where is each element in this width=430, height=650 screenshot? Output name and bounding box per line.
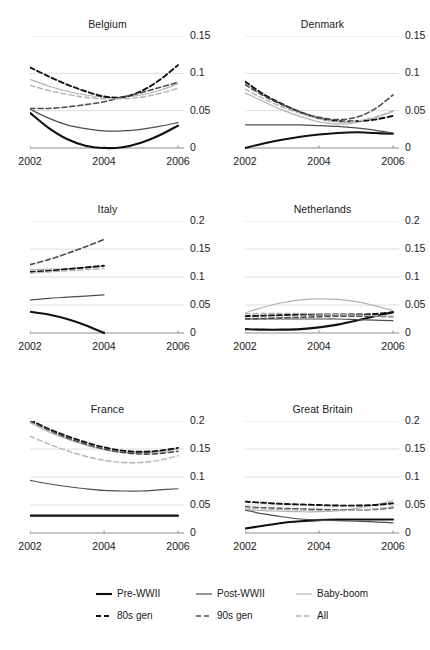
y-tick-label: 0.05 — [405, 104, 425, 116]
series-line-gen80s — [30, 421, 178, 452]
legend-item-gen90s[interactable]: 90s gen — [196, 610, 253, 621]
x-tick-label: 2004 — [297, 155, 341, 167]
y-tick-label: 0.2 — [405, 214, 420, 226]
y-tick-label: 0 — [405, 526, 411, 538]
panel-title: Italy — [0, 203, 215, 215]
plot-area — [245, 421, 407, 539]
x-tick-label: 2006 — [371, 340, 415, 352]
series-line-all — [245, 507, 393, 511]
x-tick-label: 2002 — [223, 340, 267, 352]
panel-belgium: Belgium00.050.10.15200220042006 — [0, 18, 215, 218]
y-tick-label: 0.1 — [190, 470, 205, 482]
series-line-post_wwii — [245, 319, 393, 321]
y-tick-label: 0.05 — [190, 104, 210, 116]
x-tick-label: 2006 — [371, 155, 415, 167]
plot-area — [245, 36, 407, 154]
x-tick-label: 2006 — [156, 540, 200, 552]
legend-label: 90s gen — [217, 610, 253, 621]
x-tick-label: 2004 — [297, 340, 341, 352]
x-tick-label: 2002 — [8, 340, 52, 352]
legend-swatch-baby_boom-icon — [296, 589, 312, 599]
legend-label: Baby-boom — [317, 588, 368, 599]
y-tick-label: 0 — [190, 326, 196, 338]
y-tick-label: 0.2 — [190, 414, 205, 426]
y-tick-label: 0.15 — [405, 242, 425, 254]
y-tick-label: 0.15 — [405, 442, 425, 454]
y-tick-label: 0.2 — [405, 414, 420, 426]
legend-label: Post-WWII — [217, 588, 265, 599]
series-line-post_wwii — [30, 109, 178, 131]
y-tick-label: 0.1 — [190, 66, 205, 78]
series-line-gen90s — [245, 507, 393, 510]
series-line-post_wwii — [30, 480, 178, 491]
x-tick-label: 2002 — [223, 540, 267, 552]
x-tick-label: 2004 — [82, 540, 126, 552]
x-tick-label: 2004 — [82, 340, 126, 352]
series-line-baby_boom — [245, 299, 393, 313]
y-tick-label: 0.15 — [190, 29, 210, 41]
y-tick-label: 0.05 — [405, 498, 425, 510]
figure-small-multiples-line-chart: Belgium00.050.10.15200220042006Denmark00… — [0, 0, 430, 650]
panel-denmark: Denmark00.050.10.15200220042006 — [215, 18, 430, 218]
series-line-post_wwii — [30, 295, 104, 300]
series-line-gen90s — [30, 82, 178, 108]
series-line-gen80s — [30, 65, 178, 98]
legend-label: All — [317, 610, 328, 621]
legend-item-post_wwii[interactable]: Post-WWII — [196, 588, 265, 599]
y-tick-label: 0.15 — [405, 29, 425, 41]
panel-great-britain: Great Britain00.050.10.150.2200220042006 — [215, 403, 430, 603]
legend-item-pre_wwii[interactable]: Pre-WWII — [96, 588, 160, 599]
panel-title: Belgium — [0, 18, 215, 30]
legend-item-all[interactable]: All — [296, 610, 328, 621]
legend-item-baby_boom[interactable]: Baby-boom — [296, 588, 368, 599]
y-tick-label: 0.05 — [190, 498, 210, 510]
legend-swatch-all-icon — [296, 611, 312, 621]
series-line-gen90s — [245, 85, 393, 120]
y-tick-label: 0.15 — [190, 442, 210, 454]
legend-row: Pre-WWIIPost-WWIIBaby-boom — [0, 588, 430, 610]
legend-label: 80s gen — [117, 610, 153, 621]
y-tick-label: 0.1 — [405, 470, 420, 482]
y-tick-label: 0 — [190, 141, 196, 153]
y-tick-label: 0.1 — [405, 270, 420, 282]
legend-swatch-gen80s-icon — [96, 611, 112, 621]
series-line-pre_wwii — [245, 520, 393, 529]
plot-area — [30, 221, 192, 339]
panel-france: France00.050.10.150.2200220042006 — [0, 403, 215, 603]
legend-row: 80s gen90s genAll — [0, 610, 430, 632]
x-tick-label: 2002 — [8, 155, 52, 167]
panel-title: Denmark — [215, 18, 430, 30]
x-tick-label: 2006 — [156, 340, 200, 352]
series-line-gen80s — [245, 82, 393, 122]
x-tick-label: 2002 — [8, 540, 52, 552]
y-tick-label: 0.15 — [190, 242, 210, 254]
legend-label: Pre-WWII — [117, 588, 160, 599]
panel-title: Great Britain — [215, 403, 430, 415]
legend-item-gen80s[interactable]: 80s gen — [96, 610, 153, 621]
x-tick-label: 2004 — [82, 155, 126, 167]
x-tick-label: 2002 — [223, 155, 267, 167]
series-line-gen90s — [30, 239, 104, 264]
y-tick-label: 0.1 — [405, 66, 420, 78]
legend-swatch-pre_wwii-icon — [96, 589, 112, 599]
plot-area — [30, 421, 192, 539]
series-line-pre_wwii — [30, 312, 104, 333]
y-tick-label: 0.2 — [190, 214, 205, 226]
plot-area — [245, 221, 407, 339]
y-tick-label: 0.05 — [405, 298, 425, 310]
panel-title: Netherlands — [215, 203, 430, 215]
legend-swatch-gen90s-icon — [196, 611, 212, 621]
series-line-post_wwii — [245, 125, 393, 133]
y-tick-label: 0 — [405, 326, 411, 338]
x-tick-label: 2006 — [371, 540, 415, 552]
panel-italy: Italy00.050.10.150.2200220042006 — [0, 203, 215, 403]
series-line-baby_boom — [30, 423, 178, 453]
plot-area — [30, 36, 192, 154]
y-tick-label: 0.1 — [190, 270, 205, 282]
y-tick-label: 0.05 — [190, 298, 210, 310]
panel-netherlands: Netherlands00.050.10.150.2200220042006 — [215, 203, 430, 403]
x-tick-label: 2006 — [156, 155, 200, 167]
y-tick-label: 0 — [190, 526, 196, 538]
panel-title: France — [0, 403, 215, 415]
x-tick-label: 2004 — [297, 540, 341, 552]
